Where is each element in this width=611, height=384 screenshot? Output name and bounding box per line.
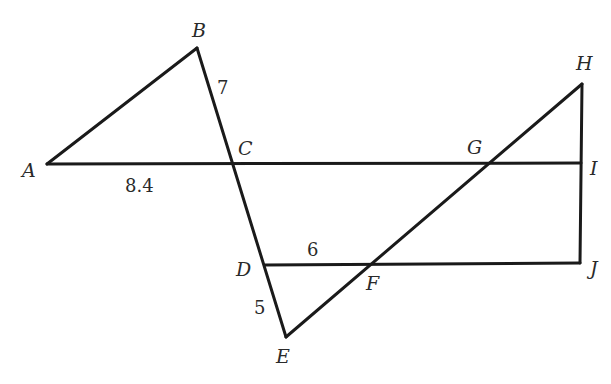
point-label-e: E (275, 345, 290, 367)
segment-ab (47, 48, 197, 164)
point-label-h: H (575, 52, 593, 74)
point-label-c: C (238, 137, 253, 159)
point-label-i: I (589, 157, 598, 179)
length-label-bc: 7 (217, 77, 228, 98)
geometry-diagram: ABCDEFGHIJ 78.465 (0, 0, 611, 384)
segment-ai (47, 163, 581, 164)
segment-hj (580, 84, 582, 263)
point-label-d: D (235, 258, 251, 280)
point-labels-group: ABCDEFGHIJ (20, 19, 599, 367)
point-label-a: A (20, 159, 36, 181)
segment-eh (286, 84, 582, 337)
length-label-ac: 8.4 (125, 175, 154, 196)
length-label-df: 6 (307, 239, 318, 260)
length-labels-group: 78.465 (125, 77, 318, 318)
length-label-de: 5 (254, 297, 265, 318)
segment-dj (265, 263, 580, 265)
point-label-b: B (191, 19, 206, 41)
segment-be (197, 48, 286, 337)
point-label-g: G (467, 136, 482, 158)
point-label-f: F (365, 272, 380, 294)
point-label-j: J (586, 257, 599, 279)
